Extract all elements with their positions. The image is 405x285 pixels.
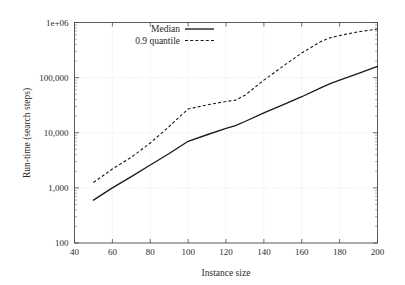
x-tick-label: 60 — [108, 247, 118, 257]
x-tick-label: 100 — [181, 247, 195, 257]
y-tick-label: 10,000 — [44, 128, 69, 138]
x-tick-label: 160 — [295, 247, 309, 257]
y-tick-label: 100,000 — [39, 73, 69, 83]
x-tick-label: 180 — [333, 247, 347, 257]
chart-figure: 406080100120140160180200 1001,00010,0001… — [0, 0, 405, 285]
x-tick-label: 120 — [219, 247, 233, 257]
x-axis-title: Instance size — [202, 268, 251, 278]
legend-label-quantile: 0.9 quantile — [135, 36, 180, 46]
y-tick-label: 1,000 — [48, 183, 69, 193]
x-tick-label: 140 — [257, 247, 271, 257]
x-tick-label: 80 — [146, 247, 156, 257]
y-tick-label: 100 — [55, 238, 69, 248]
y-axis-title: Run-time (search steps) — [22, 88, 33, 178]
runtime-vs-instance-size-chart: 406080100120140160180200 1001,00010,0001… — [0, 0, 405, 285]
x-tick-label: 40 — [70, 247, 80, 257]
y-tick-label: 1e+06 — [46, 18, 69, 28]
legend-label-median: Median — [151, 24, 180, 34]
x-tick-label: 200 — [371, 247, 385, 257]
